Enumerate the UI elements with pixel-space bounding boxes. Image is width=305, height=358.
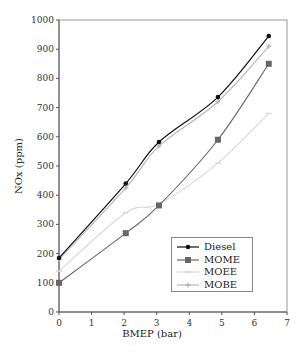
legend-item-mobe: MOBE xyxy=(176,279,248,292)
legend-item-mome: MOME xyxy=(176,254,248,267)
x-tick-label: 5 xyxy=(219,318,225,328)
y-tick-label: 600 xyxy=(37,132,54,142)
y-axis-ticks: 01002003004005006007008009001000 xyxy=(31,15,59,317)
moee-line-marker-icon xyxy=(176,267,200,277)
x-tick-label: 0 xyxy=(56,318,62,328)
y-tick-label: 700 xyxy=(37,103,54,113)
mome-line-marker-icon xyxy=(176,255,200,265)
y-tick-label: 200 xyxy=(37,249,54,259)
y-tick-label: 300 xyxy=(37,219,54,229)
legend-label: MOEE xyxy=(204,266,237,279)
y-tick-label: 1000 xyxy=(31,15,54,25)
y-tick-label: 500 xyxy=(37,161,54,171)
legend-item-moee: MOEE xyxy=(176,266,248,279)
diesel-line-marker-icon xyxy=(176,242,200,252)
legend-label: MOBE xyxy=(204,279,237,292)
y-axis-title: NOx (ppm) xyxy=(13,138,24,194)
y-tick-label: 800 xyxy=(37,73,54,83)
chart-legend: Diesel MOME MOEE MOBE xyxy=(171,237,253,292)
x-tick-label: 1 xyxy=(89,318,95,328)
series-diesel xyxy=(57,34,271,261)
x-axis-title: BMEP (bar) xyxy=(122,328,182,339)
mobe-line-marker-icon xyxy=(176,280,200,290)
series-mobe xyxy=(57,44,272,262)
y-tick-label: 400 xyxy=(37,190,54,200)
line-chart: 01002003004005006007008009001000 0123456… xyxy=(0,0,305,358)
y-tick-label: 100 xyxy=(37,278,54,288)
x-tick-label: 7 xyxy=(284,318,290,328)
legend-item-diesel: Diesel xyxy=(176,241,248,254)
legend-label: MOME xyxy=(204,254,240,267)
x-tick-label: 2 xyxy=(121,318,127,328)
x-tick-label: 3 xyxy=(154,318,160,328)
x-axis-ticks: 01234567 xyxy=(56,312,290,328)
y-tick-label: 0 xyxy=(48,307,54,317)
legend-label: Diesel xyxy=(204,241,235,254)
x-tick-label: 6 xyxy=(252,318,258,328)
x-tick-label: 4 xyxy=(186,318,192,328)
y-tick-label: 900 xyxy=(37,44,54,54)
